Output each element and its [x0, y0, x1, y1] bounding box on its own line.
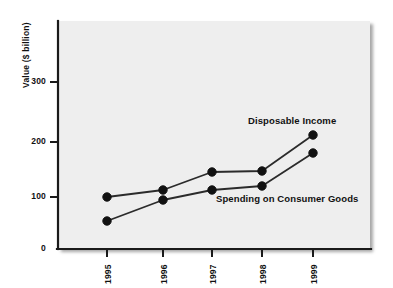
- data-point-spending-1995: [103, 217, 111, 225]
- x-tick-label-1997: 1997: [209, 264, 218, 284]
- data-point-disposable-income-1998: [258, 167, 266, 175]
- series-label-disposable-income: Disposable Income: [248, 115, 336, 126]
- data-point-disposable-income-1997: [208, 168, 216, 176]
- x-tick-label-1995: 1995: [104, 264, 113, 284]
- chart-canvas: [0, 0, 393, 288]
- y-tick-label-200: 200: [20, 137, 46, 146]
- data-point-disposable-income-1995: [103, 193, 111, 201]
- y-tick-label-0: 0: [20, 244, 46, 253]
- x-tick-label-1998: 1998: [259, 264, 268, 284]
- data-point-spending-1999: [309, 149, 317, 157]
- chart-figure: 300 200 100 0 Value ($ billion) 1995 199…: [0, 0, 393, 288]
- data-point-spending-1998: [258, 182, 266, 190]
- x-tick-label-1999: 1999: [310, 264, 319, 284]
- data-point-spending-1996: [159, 196, 167, 204]
- data-point-disposable-income-1996: [159, 186, 167, 194]
- series-label-spending-on-consumer-goods: Spending on Consumer Goods: [216, 193, 358, 204]
- data-point-spending-1997: [208, 186, 216, 194]
- y-tick-label-100: 100: [20, 192, 46, 201]
- y-axis-title: Value ($ billion): [21, 22, 31, 88]
- data-point-disposable-income-1999: [309, 131, 317, 139]
- x-tick-label-1996: 1996: [160, 264, 169, 284]
